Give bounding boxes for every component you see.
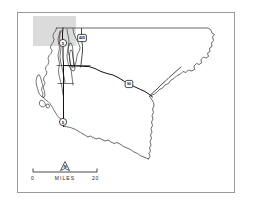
scale-bar: 0 MILES 20 xyxy=(31,169,99,182)
marker-i5-north: 5 xyxy=(59,39,66,46)
highway-northeast-branch xyxy=(150,67,182,96)
county-boundary-south xyxy=(64,120,149,159)
map-figure: 5 405 90 5 N 0 MILES 20 xyxy=(0,0,255,206)
north-arrow-letter: N xyxy=(63,164,66,169)
highway-i90-corridor xyxy=(64,66,153,98)
marker-i90: 90 xyxy=(125,80,133,87)
study-area-overlay xyxy=(33,16,76,46)
marker-405-label: 405 xyxy=(79,36,85,40)
scale-bar-max-label: 20 xyxy=(92,175,99,181)
marker-i90-label: 90 xyxy=(127,82,131,86)
north-arrow: N xyxy=(61,162,70,171)
island-small xyxy=(40,100,46,107)
map-canvas: 5 405 90 5 N 0 MILES 20 xyxy=(0,0,255,206)
marker-405: 405 xyxy=(78,34,87,41)
marker-i5-south: 5 xyxy=(59,118,66,125)
scale-bar-unit-label: MILES xyxy=(55,175,76,181)
scale-bar-min-label: 0 xyxy=(31,175,34,181)
island-tiny xyxy=(46,104,50,108)
